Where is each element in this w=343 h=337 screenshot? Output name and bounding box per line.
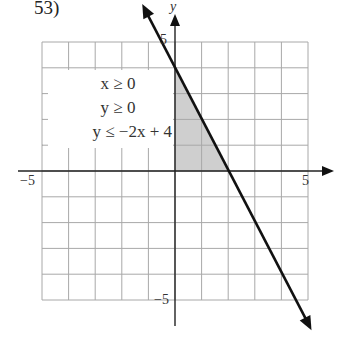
- inequality-1: x ≥ 0: [44, 72, 172, 96]
- x-axis-arrow-icon: [322, 166, 334, 176]
- inequality-system: x ≥ 0 y ≥ 0 y ≤ −2x + 4: [44, 72, 172, 144]
- x-tick-5: 5: [302, 173, 309, 189]
- y-axis-label: y: [170, 0, 176, 15]
- coordinate-plane: [0, 0, 343, 337]
- x-tick-neg5: −5: [20, 173, 35, 189]
- inequality-2: y ≥ 0: [44, 96, 172, 120]
- boundary-line: [146, 11, 308, 323]
- y-tick-neg5: −5: [154, 292, 169, 308]
- inequality-3: y ≤ −2x + 4: [44, 120, 172, 144]
- problem-number: 53): [34, 0, 59, 19]
- y-tick-5: 5: [160, 32, 167, 48]
- y-axis-arrow-icon: [170, 14, 180, 26]
